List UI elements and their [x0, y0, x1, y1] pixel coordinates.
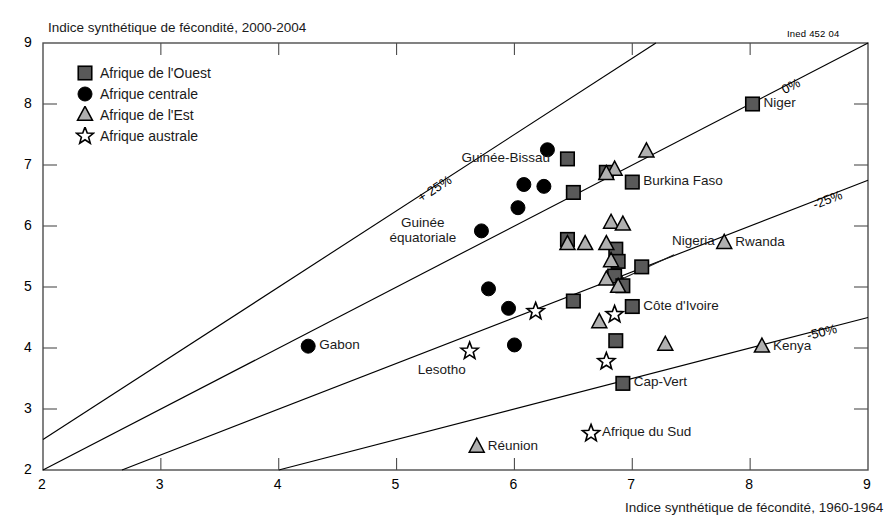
square-data-point: [626, 300, 640, 314]
legend-item-label: Afrique centrale: [96, 86, 198, 102]
x-tick-label: 7: [627, 476, 635, 492]
square-data-point: [561, 152, 575, 166]
data-point-label: Guinée-Bissau: [462, 150, 551, 165]
square-data-point: [616, 377, 630, 391]
star-marker-icon: [74, 127, 96, 145]
triangle-data-point: [615, 216, 630, 230]
square-data-point: [609, 334, 623, 348]
y-tick-label: 3: [24, 400, 32, 416]
data-point-label: Guinéeéquatoriale: [389, 215, 456, 245]
nigeria-annotation-label: Nigeria: [672, 233, 715, 248]
circle-data-point: [537, 179, 551, 193]
circle-marker-icon: [74, 85, 96, 103]
data-point-label: Burkina Faso: [643, 173, 723, 188]
star-data-point: [527, 302, 544, 318]
x-tick-label: 4: [274, 476, 282, 492]
square-data-point: [567, 186, 581, 200]
circle-data-point: [301, 339, 315, 353]
circle-data-point: [517, 178, 531, 192]
x-tick-label: 9: [863, 476, 871, 492]
circle-data-point: [502, 301, 516, 315]
legend-item-1[interactable]: Afrique centrale: [74, 83, 211, 104]
legend-item-label: Afrique australe: [96, 128, 198, 144]
chart-figure: Indice synthétique de fécondité, 2000-20…: [0, 0, 894, 527]
data-point-label: Afrique du Sud: [602, 424, 691, 439]
y-axis-title: Indice synthétique de fécondité, 2000-20…: [48, 20, 306, 35]
y-tick-label: 6: [24, 217, 32, 233]
circle-data-point: [474, 224, 488, 238]
triangle-data-point: [469, 438, 484, 452]
triangle-data-point: [717, 234, 732, 248]
star-data-point: [582, 424, 599, 440]
legend-item-3[interactable]: Afrique australe: [74, 125, 211, 146]
legend: Afrique de l'OuestAfrique centraleAfriqu…: [74, 62, 211, 146]
x-tick-label: 6: [509, 476, 517, 492]
data-point-label: Rwanda: [735, 234, 785, 249]
circle-data-point: [507, 338, 521, 352]
triangle-data-point: [592, 314, 607, 328]
x-tick-label: 3: [156, 476, 164, 492]
legend-item-label: Afrique de l'Ouest: [96, 65, 211, 81]
data-point-label: Gabon: [319, 337, 360, 352]
x-axis-title: Indice synthétique de fécondité, 1960-19…: [625, 500, 883, 515]
data-point-label: Côte d'Ivoire: [643, 298, 718, 313]
y-tick-label: 8: [24, 95, 32, 111]
y-tick-label: 9: [24, 34, 32, 50]
square-data-point: [635, 260, 649, 274]
circle-data-point: [482, 282, 496, 296]
star-data-point: [598, 352, 615, 368]
x-tick-label: 2: [38, 476, 46, 492]
y-tick-label: 5: [24, 278, 32, 294]
triangle-marker-icon: [74, 106, 96, 124]
legend-item-2[interactable]: Afrique de l'Est: [74, 104, 211, 125]
data-point-label: Niger: [764, 95, 796, 110]
square-data-point: [626, 175, 640, 189]
legend-item-0[interactable]: Afrique de l'Ouest: [74, 62, 211, 83]
circle-data-point: [511, 201, 525, 215]
star-data-point: [461, 342, 478, 358]
triangle-data-point: [658, 336, 673, 350]
triangle-data-point: [754, 338, 769, 352]
triangle-data-point: [639, 143, 654, 157]
data-point-label: Lesotho: [418, 362, 466, 377]
data-point-label: Cap-Vert: [634, 374, 687, 389]
y-tick-label: 4: [24, 339, 32, 355]
x-tick-label: 8: [745, 476, 753, 492]
triangle-data-point: [578, 236, 593, 250]
y-tick-label: 7: [24, 156, 32, 172]
y-tick-label: 2: [24, 461, 32, 477]
x-tick-label: 5: [392, 476, 400, 492]
square-data-point: [746, 97, 760, 111]
square-marker-icon: [74, 64, 96, 82]
data-point-label: Kenya: [773, 338, 811, 353]
triangle-data-point: [604, 214, 619, 228]
source-code-label: Ined 452 04: [787, 28, 839, 39]
star-data-point: [606, 305, 623, 321]
legend-item-label: Afrique de l'Est: [96, 107, 194, 123]
data-point-label: Réunion: [488, 438, 538, 453]
square-data-point: [567, 294, 581, 308]
